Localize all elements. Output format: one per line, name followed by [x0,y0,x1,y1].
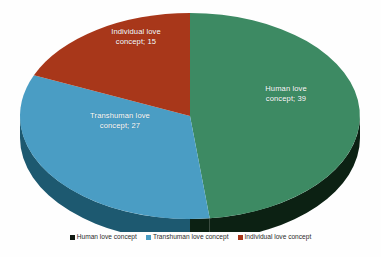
pie-chart-3d-canvas [0,0,381,232]
legend-label-transhuman: Transhuman love concept [153,233,229,241]
pie-top-face [20,13,360,219]
legend-swatch-icon-individual [238,235,243,240]
legend-item-transhuman-love-concept[interactable]: Transhuman love concept [146,233,229,241]
legend-swatch-icon-human [70,235,75,240]
chart-legend: Human love concept Transhuman love conce… [0,233,381,241]
legend-label-individual: Individual love concept [245,233,312,241]
pie-chart-figure: Human love concept; 39 Transhuman love c… [0,0,381,257]
legend-swatch-icon-transhuman [146,235,151,240]
legend-item-human-love-concept[interactable]: Human love concept [70,233,137,241]
legend-item-individual-love-concept[interactable]: Individual love concept [238,233,312,241]
legend-label-human: Human love concept [77,233,137,241]
